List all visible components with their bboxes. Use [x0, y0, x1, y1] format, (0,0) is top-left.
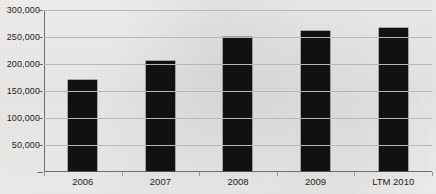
x-axis-tick-label: 2008: [227, 176, 248, 187]
chart-image: -50,000100,000150,000200,000250,000300,0…: [0, 0, 436, 194]
y-axis-tick: [38, 145, 43, 146]
x-axis-tick: [44, 172, 45, 176]
x-axis-tick-label: LTM 2010: [372, 176, 414, 187]
y-axis-tick-label: 200,000: [7, 59, 40, 69]
x-axis-baseline: [44, 171, 432, 172]
gridline: [44, 64, 432, 65]
x-axis-tick: [277, 172, 278, 176]
bar: [379, 28, 408, 171]
gridline: [44, 145, 432, 146]
y-axis-tick-label: 50,000: [12, 140, 40, 150]
x-axis-labels: 2006200720082009LTM 2010: [44, 176, 432, 190]
y-axis-tick: [38, 91, 43, 92]
y-axis-tick: [38, 64, 43, 65]
x-axis-tick: [199, 172, 200, 176]
y-axis-tick: [38, 10, 43, 11]
gridline: [44, 118, 432, 119]
x-axis-tick-label: 2006: [72, 176, 93, 187]
y-axis-tick: [38, 37, 43, 38]
x-axis-tick: [432, 172, 433, 176]
x-axis-tick: [122, 172, 123, 176]
gridline: [44, 37, 432, 38]
bar: [301, 31, 330, 171]
gridline: [44, 91, 432, 92]
plot-area: [44, 10, 432, 172]
bar: [146, 61, 175, 171]
x-axis-tick-label: 2009: [305, 176, 326, 187]
x-axis-tick-label: 2007: [150, 176, 171, 187]
y-axis-tick-label: 150,000: [7, 86, 40, 96]
y-axis-tick-label: 300,000: [7, 5, 40, 15]
gridline: [44, 10, 432, 11]
bar: [68, 80, 97, 171]
chart-title: [0, 0, 436, 1]
y-axis-tick: [38, 172, 43, 173]
x-axis-tick: [354, 172, 355, 176]
y-axis-tick-label: 250,000: [7, 32, 40, 42]
y-axis-tick-label: 100,000: [7, 113, 40, 123]
y-axis-labels: -50,000100,000150,000200,000250,000300,0…: [0, 10, 40, 172]
bar: [223, 37, 252, 171]
y-axis-tick: [38, 118, 43, 119]
